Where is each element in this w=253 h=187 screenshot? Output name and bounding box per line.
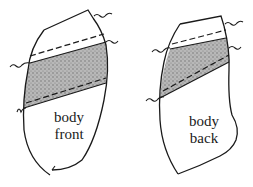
break-line-icon (106, 41, 118, 44)
body-back-label-line1: body (179, 113, 229, 130)
break-line-icon (225, 21, 243, 25)
break-line-icon (229, 47, 241, 50)
pattern-diagram (0, 0, 253, 187)
body-front-label-line2: front (44, 126, 94, 143)
body-back-piece (146, 16, 243, 174)
body-front-piece (10, 10, 118, 175)
break-line-icon (146, 97, 164, 102)
break-line-icon (10, 63, 30, 68)
body-front-label-line1: body (44, 109, 94, 126)
body-back-label-line2: back (179, 130, 229, 147)
front-shaded-band (24, 42, 107, 108)
break-line-icon (94, 13, 112, 17)
back-shaded-band (160, 38, 229, 98)
body-front-label: body front (44, 109, 94, 143)
body-back-label: body back (179, 113, 229, 147)
break-line-icon (17, 108, 26, 112)
